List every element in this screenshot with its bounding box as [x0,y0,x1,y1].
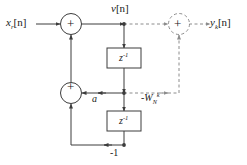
delay-block-2-label: z-1 [119,115,128,126]
delay-block-1-label: z-1 [119,52,128,63]
junction-dot-mid-node [122,91,126,95]
figure-canvas: xr[n] yk[n] v[n] a -WNk -1 z-1 z-1 + + + [0,0,247,165]
output-adder-plus-sign: + [174,17,181,30]
intermediate-signal-label: v[n] [111,3,129,14]
feedback-adder-plus-sign: + [67,80,74,93]
coefficient-a-label: a [92,94,97,104]
input-signal-label: xr[n] [6,17,26,31]
junction-dot-bottom-node [122,143,126,147]
junction-dot-v-node [122,22,126,26]
output-signal-label: yk[n] [210,17,231,31]
gain-minus-one-label: -1 [110,148,118,158]
twiddle-factor-label: -WNk [141,92,160,106]
input-adder-plus-sign: + [67,17,74,30]
